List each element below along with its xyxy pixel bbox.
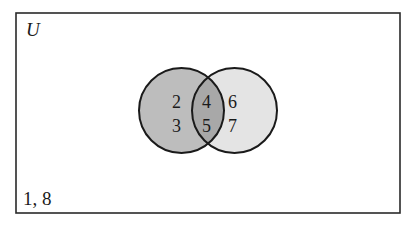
left-only-element-2: 3: [172, 117, 181, 135]
left-only-element-1: 2: [172, 93, 181, 111]
intersection-element-1: 4: [202, 93, 211, 111]
right-only-element-2: 7: [228, 117, 237, 135]
intersection-element-2: 5: [202, 117, 211, 135]
right-only-element-1: 6: [228, 93, 237, 111]
outside-elements-label: 1, 8: [23, 189, 52, 208]
universe-label: U: [26, 20, 40, 39]
venn-diagram: [0, 0, 418, 226]
